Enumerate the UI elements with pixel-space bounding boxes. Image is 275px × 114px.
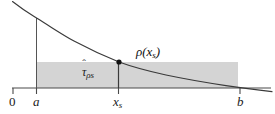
rho-x-s-marker-dot — [116, 59, 121, 64]
axis-label-origin: 0 — [9, 95, 16, 108]
axis-label-b: b — [237, 95, 244, 108]
axis-label-x-s-subscript: s — [119, 100, 123, 110]
axis-label-a: a — [33, 95, 40, 108]
rho-x-s-label-head: ρ(x — [136, 44, 152, 59]
axis-label-x-s: xs — [113, 95, 122, 110]
rho-x-s-label: ρ(xs) — [136, 44, 160, 60]
rho-x-s-label-tail: ) — [156, 44, 160, 59]
tau-hat-rho-s-label: τρs — [82, 65, 94, 80]
tau-hat-symbol: τ — [82, 65, 86, 80]
shaded-area-rect — [37, 62, 238, 88]
tau-hat-subscript: ρs — [86, 70, 94, 80]
rho-density-figure: ρ(xs) τρs 0 a xs b — [0, 0, 275, 114]
